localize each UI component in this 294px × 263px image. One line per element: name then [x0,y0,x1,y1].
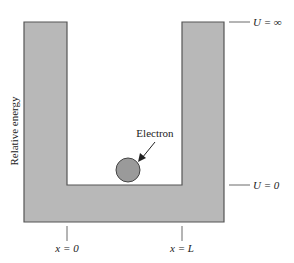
u-zero-label: U = 0 [253,179,280,191]
x0-label: x = 0 [54,242,79,254]
electron-label: Electron [136,127,174,139]
electron-particle [116,158,140,182]
electron-arrow [138,142,155,162]
xl-label: x = L [169,242,194,254]
u-infinity-label: U = ∞ [253,16,282,28]
potential-well-diagram: Electron U = ∞ U = 0 x = 0 x = L Relativ… [0,0,294,263]
potential-well-walls [24,22,224,222]
y-axis-label: Relative energy [8,96,20,166]
